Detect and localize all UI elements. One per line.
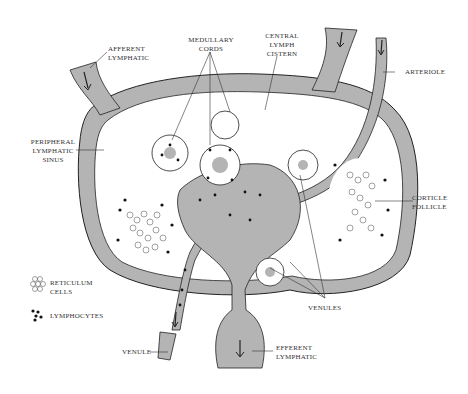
label-central-lymph-cistern: CENTRALLYMPHCISTERN xyxy=(262,32,302,59)
legend-reticulum-cells: RETICULUMCELLS xyxy=(50,279,93,297)
label-efferent-lymphatic: EFFERENTLYMPHATIC xyxy=(276,344,317,362)
label-arteriole: ARTERIOLE xyxy=(405,68,445,77)
label-venules: VENULES xyxy=(308,304,341,313)
label-medullary-cords: MEDULLARYCORDS xyxy=(185,36,237,54)
legend-lymphocytes: LYMPHOCYTES xyxy=(50,312,103,321)
reticulum-cells-icon xyxy=(31,277,46,292)
label-afferent-lymphatic: AFFERENTLYMPHATIC xyxy=(108,45,149,63)
lymphocytes-icon xyxy=(31,309,42,321)
label-cortical-follicle: CORTICLEFOLLICLE xyxy=(412,194,447,212)
label-peripheral-lymphatic-sinus: PERIPHERALLYMPHATICSINUS xyxy=(28,138,78,165)
lymph-node-diagram xyxy=(0,0,468,394)
label-venule: VENULE xyxy=(122,348,151,357)
